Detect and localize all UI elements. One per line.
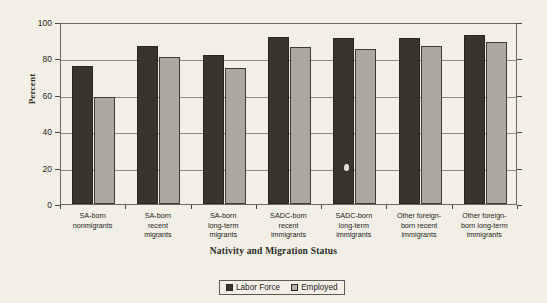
- y-axis-tick-label: 60: [18, 91, 52, 101]
- y-axis-tick-mark: [517, 59, 522, 60]
- y-axis-tick-label: 80: [18, 54, 52, 64]
- x-axis-category-label: SADC-bornlong-termimmigrants: [321, 211, 386, 240]
- y-axis-tick-label: 40: [18, 127, 52, 137]
- legend-item: Employed: [291, 283, 337, 292]
- x-axis-tick-mark: [386, 205, 387, 209]
- x-axis-category-label-line: long-term: [191, 221, 256, 231]
- bar-employed: [159, 57, 180, 204]
- legend-swatch-icon: [291, 284, 298, 291]
- x-axis-category-label-line: SA-born: [125, 211, 190, 221]
- x-axis-category-label: SADC-bornrecentimmigrants: [256, 211, 321, 240]
- legend-label: Employed: [301, 283, 337, 292]
- x-axis-category-label-line: immigrants: [386, 230, 451, 240]
- x-axis-category-label-line: migrants: [125, 230, 190, 240]
- x-axis-category-label-line: SADC-born: [321, 211, 386, 221]
- legend-label: Labor Force: [236, 283, 280, 292]
- y-axis-tick-mark: [517, 23, 522, 24]
- x-axis-category-label-line: SADC-born: [256, 211, 321, 221]
- x-axis-category-label-line: immigrants: [256, 230, 321, 240]
- x-axis-tick-mark: [191, 205, 192, 209]
- y-axis-tick-mark: [517, 169, 522, 170]
- bar-employed: [355, 49, 376, 204]
- x-axis-category-label-line: immigrants: [452, 230, 517, 240]
- x-axis-tick-mark: [256, 205, 257, 209]
- x-axis-category-label: Other foreign-born recentimmigrants: [386, 211, 451, 240]
- bar-labor: [399, 38, 420, 204]
- x-axis-category-label: SA-bornrecentmigrants: [125, 211, 190, 240]
- x-axis-category-label-line: Other foreign-: [386, 211, 451, 221]
- x-axis-category-label: Other foreign-born long-termimmigrants: [452, 211, 517, 240]
- bar-employed: [94, 97, 115, 204]
- x-axis-category-label-line: long-term: [321, 221, 386, 231]
- x-axis-category-label-line: migrants: [191, 230, 256, 240]
- bar-employed: [225, 68, 246, 205]
- x-axis-category-label-line: nonmigrants: [60, 221, 125, 231]
- x-axis-category-label-line: born recent: [386, 221, 451, 231]
- x-axis-category-label-line: Other foreign-: [452, 211, 517, 221]
- y-axis-tick-label: 20: [18, 164, 52, 174]
- bar-employed: [486, 42, 507, 204]
- y-axis-tick-mark: [517, 132, 522, 133]
- x-axis-category-label-line: SA-born: [191, 211, 256, 221]
- x-axis-category-label-line: born long-term: [452, 221, 517, 231]
- bar-employed: [290, 47, 311, 204]
- x-axis-tick-mark: [517, 205, 518, 209]
- x-axis-tick-mark: [452, 205, 453, 209]
- y-axis-tick-label: 100: [18, 18, 52, 28]
- bar-labor: [464, 35, 485, 204]
- x-axis-category-label-line: SA-born: [60, 211, 125, 221]
- x-axis-category-label-line: recent: [256, 221, 321, 231]
- legend-swatch-icon: [226, 284, 233, 291]
- bar-labor: [72, 66, 93, 204]
- y-axis-tick-mark: [517, 96, 522, 97]
- x-axis-tick-mark: [321, 205, 322, 209]
- bar-labor: [333, 38, 354, 204]
- y-axis-title: Percent: [27, 59, 37, 119]
- chart-legend: Labor ForceEmployed: [219, 280, 345, 295]
- x-axis-tick-mark: [125, 205, 126, 209]
- bar-labor: [268, 37, 289, 204]
- bar-labor: [137, 46, 158, 204]
- bar-labor: [203, 55, 224, 204]
- x-axis-category-label-line: immigrants: [321, 230, 386, 240]
- x-axis-category-label-line: recent: [125, 221, 190, 231]
- y-axis-tick-label: 0: [18, 200, 52, 210]
- bar-chart-figure: Percent 100806040200 SA-bornnonmigrantsS…: [0, 0, 547, 303]
- legend-item: Labor Force: [226, 283, 280, 292]
- bar-employed: [421, 46, 442, 204]
- x-axis-tick-mark: [60, 205, 61, 209]
- plot-area: [60, 23, 517, 205]
- x-axis-category-label: SA-bornlong-termmigrants: [191, 211, 256, 240]
- x-axis-title: Nativity and Migration Status: [0, 246, 547, 256]
- x-axis-category-label: SA-bornnonmigrants: [60, 211, 125, 230]
